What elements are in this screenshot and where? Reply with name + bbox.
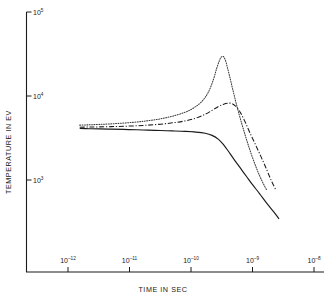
y-axis-title: TEMPERATURE IN EV xyxy=(4,110,13,194)
chart-background xyxy=(0,0,327,300)
temperature-vs-time-chart: 105104103 10–1210–1110–1010–910–8 TIME I… xyxy=(0,0,327,300)
x-axis-title: TIME IN SEC xyxy=(138,285,187,294)
